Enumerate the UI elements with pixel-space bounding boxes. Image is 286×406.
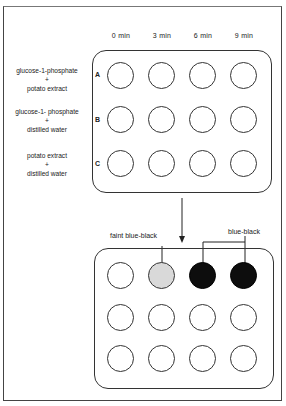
result-well-a-3 bbox=[148, 262, 175, 289]
result-well-a-0 bbox=[107, 262, 134, 289]
result-well-a-6 bbox=[189, 262, 216, 289]
result-well-b-6 bbox=[189, 304, 216, 331]
result-well-c-0 bbox=[107, 345, 134, 372]
result-well-c-6 bbox=[189, 345, 216, 372]
label-blue-black: blue-black bbox=[228, 228, 260, 235]
result-well-c-9 bbox=[230, 345, 257, 372]
result-well-b-3 bbox=[148, 304, 175, 331]
result-well-c-3 bbox=[148, 345, 175, 372]
result-well-a-9 bbox=[230, 262, 257, 289]
down-arrow-icon bbox=[179, 236, 185, 243]
result-well-b-9 bbox=[230, 304, 257, 331]
label-faint-blue-black: faint blue-black bbox=[110, 232, 157, 239]
result-well-b-0 bbox=[107, 304, 134, 331]
